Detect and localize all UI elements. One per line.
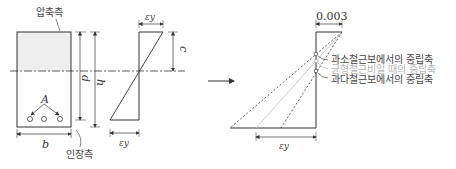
strain-diagram: εy εy c: [110, 12, 190, 148]
rebar-left: [28, 117, 33, 122]
label-A: A: [40, 93, 49, 106]
label-concrete-strain: 0.003: [316, 10, 348, 23]
rebar-right: [58, 117, 63, 122]
label-c: c: [177, 46, 190, 52]
label-eps-y-bottom: εy: [119, 138, 130, 148]
under-reinforced-strain-line: [230, 32, 342, 128]
beam-cross-section: A b d h 압축측 인장측: [10, 6, 185, 160]
label-compression-side: 압축측: [36, 6, 63, 18]
label-over-reinforced-neutral-axis: 과다철근보에서의 중립축: [331, 73, 433, 85]
label-b: b: [42, 138, 49, 151]
label-h: h: [94, 79, 107, 86]
balanced-strain-line: [256, 32, 342, 128]
label-eps-y-top: εy: [145, 12, 156, 22]
rebar-middle: [42, 117, 47, 122]
neutral-axis-comparison: 0.003 과소철근보에서의 중립축 균형철근비일 때의 중립축 과다철근보에서…: [230, 10, 436, 151]
label-d: d: [79, 75, 92, 82]
beam-strain-diagram: A b d h 압축측 인장측 εy εy: [0, 0, 456, 169]
label-eps-y-right: εy: [279, 141, 290, 151]
compression-zone: [17, 32, 71, 71]
label-tension-side: 인장측: [66, 149, 93, 160]
